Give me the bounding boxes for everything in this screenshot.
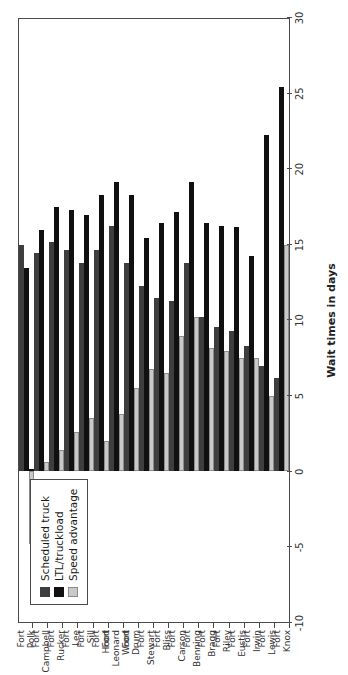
bar (104, 441, 109, 471)
value-tick-label: 20 (294, 163, 305, 176)
bar (99, 195, 104, 471)
bar (119, 414, 124, 471)
category-tick (138, 623, 139, 628)
bar (89, 419, 94, 472)
value-tick-label: 5 (294, 393, 305, 399)
value-tick (287, 622, 292, 623)
legend-item: LTL/truckload (53, 489, 65, 597)
value-tick (287, 546, 292, 547)
bar-group (244, 19, 259, 622)
bar-group (154, 19, 169, 622)
category-tick (183, 623, 184, 628)
category-tick (213, 623, 214, 628)
chart-figure: Fort KnoxFort LewisFort IrwinFort Eustis… (0, 0, 348, 675)
value-tick-label: 0 (294, 469, 305, 475)
bar (194, 318, 199, 472)
value-tick-label: 30 (294, 12, 305, 25)
bar-group (169, 19, 184, 622)
value-tick (287, 93, 292, 94)
bar (239, 358, 244, 471)
category-tick (229, 623, 230, 628)
value-tick (287, 17, 292, 18)
value-tick (287, 244, 292, 245)
bar-group (184, 19, 199, 622)
value-tick (287, 320, 292, 321)
legend-label-speed-advantage: Speed advantage (67, 489, 79, 581)
bar (24, 268, 29, 472)
category-tick (32, 623, 33, 628)
bar-group (259, 19, 274, 622)
bar (209, 348, 214, 472)
value-tick-label: 25 (294, 87, 305, 100)
category-tick (259, 623, 260, 628)
value-axis: -10-5051015202530 (287, 18, 309, 623)
bar-group (109, 19, 124, 622)
bar (39, 230, 44, 471)
legend-swatch-speed-advantage (68, 587, 78, 597)
category-tick (168, 623, 169, 628)
category-tick (274, 623, 275, 628)
bar-group (94, 19, 109, 622)
bar (254, 358, 259, 471)
bar (74, 432, 79, 471)
value-tick-label: 15 (294, 239, 305, 252)
bar (44, 462, 49, 471)
legend-label-ltl-truckload: LTL/truckload (53, 511, 65, 581)
bar-group (214, 19, 229, 622)
chart-legend: Scheduled truck LTL/truckload Speed adva… (30, 479, 88, 605)
bar (164, 373, 169, 471)
category-tick (123, 623, 124, 628)
legend-swatch-scheduled-truck (40, 587, 50, 597)
bar-group (199, 19, 214, 622)
category-axis: Fort KnoxFort LewisFort IrwinFort Eustis… (18, 623, 290, 675)
bar (179, 336, 184, 472)
category-label: Fort Polk (16, 630, 36, 675)
legend-item: Speed advantage (67, 489, 79, 597)
bar (149, 369, 154, 472)
bar-group (124, 19, 139, 622)
category-tick (244, 623, 245, 628)
value-tick (287, 471, 292, 472)
legend-swatch-ltl-truckload (54, 587, 64, 597)
value-tick-label: -10 (294, 615, 305, 631)
bar (134, 388, 139, 471)
legend-item: Scheduled truck (39, 489, 51, 597)
bar (269, 396, 274, 471)
value-tick (287, 168, 292, 169)
category-tick (93, 623, 94, 628)
category-tick (108, 623, 109, 628)
rotated-figure-container: Fort KnoxFort LewisFort IrwinFort Eustis… (0, 0, 348, 675)
category-tick (289, 623, 290, 628)
category-tick (153, 623, 154, 628)
category-tick (198, 623, 199, 628)
bar (59, 450, 64, 471)
value-tick-label: 10 (294, 314, 305, 327)
value-tick-label: -5 (294, 542, 305, 552)
category-tick (77, 623, 78, 628)
value-tick (287, 395, 292, 396)
bar (224, 351, 229, 472)
bar-group (229, 19, 244, 622)
category-tick (47, 623, 48, 628)
bar-group (139, 19, 154, 622)
bar (54, 207, 59, 471)
legend-label-scheduled-truck: Scheduled truck (39, 496, 51, 581)
value-axis-title: Wait times in days (325, 18, 338, 623)
category-tick (62, 623, 63, 628)
